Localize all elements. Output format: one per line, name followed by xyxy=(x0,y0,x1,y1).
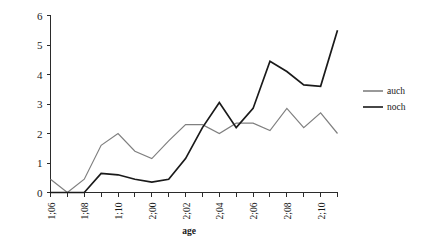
chart-canvas: 0123456 1;061;081;102;002;022;042;062;08… xyxy=(0,0,423,243)
x-tick-group: 1;061;081;102;002;022;042;062;082;10 xyxy=(47,193,338,220)
x-tick-label: 1;10 xyxy=(114,202,124,219)
series-line-noch xyxy=(51,30,338,192)
y-tick-label: 0 xyxy=(37,187,43,199)
y-tick-label: 4 xyxy=(37,69,43,81)
x-tick-label: 1;06 xyxy=(47,202,57,219)
legend-label-auch: auch xyxy=(387,86,405,96)
y-tick-label: 1 xyxy=(37,157,43,169)
y-tick-label: 3 xyxy=(37,98,43,110)
y-tick-label: 6 xyxy=(37,10,43,22)
x-tick-label: 2;08 xyxy=(283,202,293,219)
x-axis-group: 1;061;081;102;002;022;042;062;082;10 xyxy=(47,193,338,220)
line-chart: 0123456 1;061;081;102;002;022;042;062;08… xyxy=(0,0,423,243)
y-tick-group: 0123456 xyxy=(37,10,51,199)
x-tick-label: 2;00 xyxy=(148,202,158,219)
x-axis-title: age xyxy=(182,226,196,236)
x-tick-label: 1;08 xyxy=(80,202,90,219)
legend-label-noch: noch xyxy=(387,102,406,112)
x-tick-label: 2;06 xyxy=(249,202,259,219)
series-group xyxy=(51,30,338,192)
y-tick-label: 2 xyxy=(37,128,43,140)
x-tick-label: 2;10 xyxy=(317,202,327,219)
x-tick-label: 2;04 xyxy=(215,202,225,219)
y-tick-label: 5 xyxy=(37,39,43,51)
x-tick-label: 2;02 xyxy=(182,202,192,219)
chart-legend: auchnoch xyxy=(363,86,406,112)
series-line-auch xyxy=(51,108,338,192)
y-axis-group: 0123456 xyxy=(37,10,51,199)
